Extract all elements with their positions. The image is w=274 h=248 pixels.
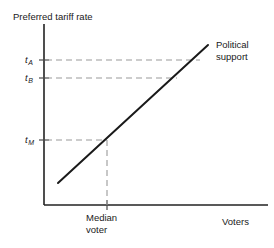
series-annotation-line2: support — [216, 51, 248, 62]
y-tick-label-ta-subscript: A — [28, 59, 33, 66]
x-tick-label-median-voter: Medianvoter — [86, 212, 117, 236]
y-tick-label-tb: tB — [25, 72, 33, 84]
y-tick-label-tm-subscript: M — [28, 139, 34, 146]
series-annotation-political-support: Politicalsupport — [216, 39, 249, 63]
figure-political-support-chart: Preferred tariff rate Voters tA tB tM Me… — [0, 0, 274, 248]
x-tick-label-median-voter-line1: Median — [86, 212, 117, 223]
chart-plot-area — [0, 0, 274, 248]
series-annotation-line1: Political — [216, 39, 249, 50]
y-axis-label: Preferred tariff rate — [13, 11, 93, 23]
x-axis-label: Voters — [222, 216, 249, 228]
y-tick-label-ta: tA — [25, 54, 33, 66]
political-support-line — [58, 45, 208, 183]
x-tick-label-median-voter-line2: voter — [86, 224, 107, 235]
y-tick-label-tb-subscript: B — [28, 77, 33, 84]
y-tick-label-tm: tM — [25, 134, 34, 146]
